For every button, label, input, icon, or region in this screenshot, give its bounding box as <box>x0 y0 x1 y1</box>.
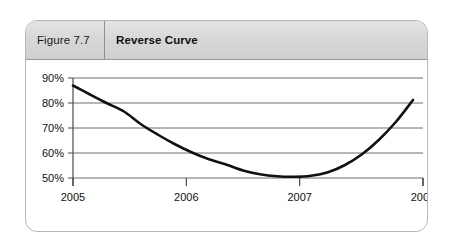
reverse-curve-chart: 50%60%70%80%90% 2005200620072008 <box>26 60 428 232</box>
reverse-curve-line <box>73 86 413 177</box>
y-axis-tick-label: 50% <box>42 172 64 184</box>
x-axis-labels-group: 2005200620072008 <box>61 191 428 203</box>
x-axis-tick-label: 2006 <box>174 191 198 203</box>
figure-number-label: Figure 7.7 <box>26 34 104 46</box>
x-axis-ticks-group <box>73 178 423 186</box>
y-axis-tick-label: 70% <box>42 122 64 134</box>
y-axis-tick-label: 90% <box>42 72 64 84</box>
x-axis-tick-label: 2007 <box>287 191 311 203</box>
figure-panel: Figure 7.7 Reverse Curve 50%60%70%80%90%… <box>25 20 428 232</box>
figure-title-label: Reverse Curve <box>105 34 198 46</box>
x-axis-tick-label: 2005 <box>61 191 85 203</box>
y-axis-tick-label: 80% <box>42 97 64 109</box>
y-axis-labels-group: 50%60%70%80%90% <box>42 72 64 184</box>
figure-header: Figure 7.7 Reverse Curve <box>26 21 427 60</box>
axis-group <box>73 78 423 186</box>
y-axis-tick-label: 60% <box>42 147 64 159</box>
gridlines-group <box>68 78 423 178</box>
chart-area: 50%60%70%80%90% 2005200620072008 <box>26 60 428 232</box>
x-axis-tick-label: 2008 <box>411 191 428 203</box>
